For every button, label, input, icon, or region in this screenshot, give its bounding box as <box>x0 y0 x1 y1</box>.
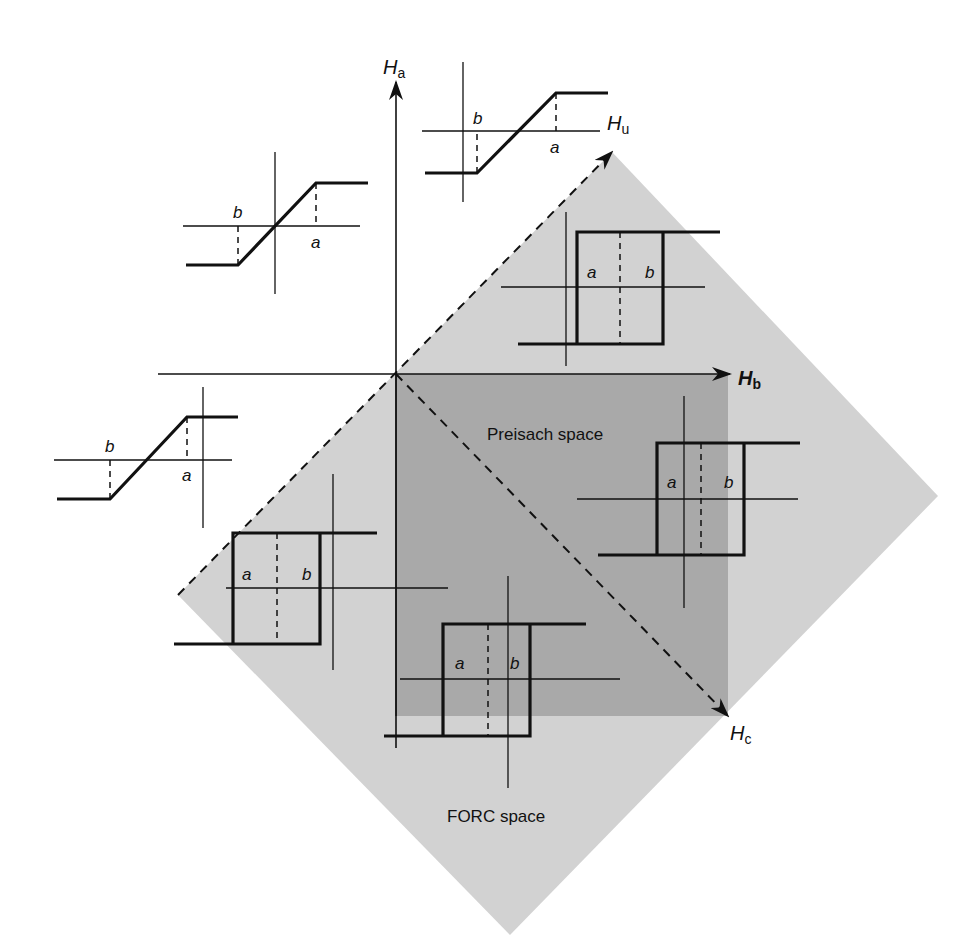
forc-preisach-diagram: ababababababab Ha Hb Hu Hc Preisach spac… <box>0 0 980 951</box>
label-b: b <box>105 437 114 456</box>
hysteron-curve <box>425 93 608 173</box>
label-a: a <box>182 466 191 485</box>
label-a: a <box>667 473 676 492</box>
label-b: b <box>724 473 733 492</box>
hu-axis-label: Hu <box>607 112 629 137</box>
label-a: a <box>550 138 559 157</box>
preisach-space-label: Preisach space <box>487 425 603 444</box>
label-a: a <box>311 233 320 252</box>
hysteron-ramp-upper-left: ab <box>183 152 368 294</box>
forc-space-label: FORC space <box>447 807 545 826</box>
hysteron-curve <box>186 183 368 265</box>
label-b: b <box>473 109 482 128</box>
label-a: a <box>242 565 251 584</box>
label-a: a <box>587 263 596 282</box>
label-a: a <box>455 654 464 673</box>
hc-axis-label: Hc <box>730 722 751 747</box>
hysteron-ramp-left: ab <box>54 387 238 528</box>
ha-axis-label: Ha <box>383 56 405 81</box>
hysteron-curve <box>57 417 238 499</box>
hysteron-ramp-top: ab <box>422 62 608 202</box>
label-b: b <box>233 203 242 222</box>
label-b: b <box>302 565 311 584</box>
label-b: b <box>510 654 519 673</box>
label-b: b <box>645 263 654 282</box>
